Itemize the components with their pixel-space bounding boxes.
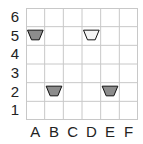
row-label-1: 1 xyxy=(8,101,22,119)
col-label-d: D xyxy=(82,123,101,141)
col-label-f: F xyxy=(119,123,138,141)
col-label-a: A xyxy=(26,123,45,141)
row-label-5: 5 xyxy=(8,27,22,45)
row-label-2: 2 xyxy=(8,83,22,101)
board-grid xyxy=(26,8,138,120)
row-label-3: 3 xyxy=(8,64,22,82)
col-label-b: B xyxy=(45,123,64,141)
grid-lines xyxy=(26,8,138,120)
trapezoid-piece-e2 xyxy=(102,86,118,96)
row-label-6: 6 xyxy=(8,8,22,26)
col-label-e: E xyxy=(101,123,120,141)
trapezoid-piece-b2 xyxy=(46,86,62,96)
row-label-4: 4 xyxy=(8,45,22,63)
col-label-c: C xyxy=(63,123,82,141)
trapezoid-piece-a5 xyxy=(28,30,44,40)
trapezoid-piece-d5 xyxy=(84,30,100,40)
